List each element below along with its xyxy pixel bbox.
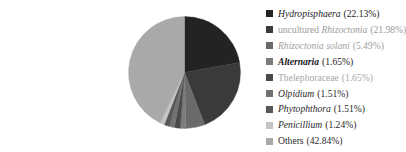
legend-swatch	[266, 74, 273, 81]
legend-percent: (1.51%)	[334, 103, 365, 114]
legend-percent: (5.49%)	[353, 40, 384, 51]
legend-percent: (22.13%)	[344, 8, 380, 19]
legend-label-italic: Rhizoctonia	[321, 24, 367, 35]
legend-swatch	[266, 106, 273, 113]
legend-item-phytophthora: Phytophthora(1.51%)	[266, 101, 406, 117]
legend-item-alternaria: Alternaria(1.65%)	[266, 54, 406, 70]
legend-swatch	[266, 26, 273, 33]
legend: Hydropisphaera(22.13%) uncultured Rhizoc…	[266, 6, 406, 149]
legend-percent: (1.24%)	[325, 119, 356, 130]
legend-percent: (1.51%)	[317, 88, 348, 99]
legend-swatch	[266, 90, 273, 97]
legend-label: Hydropisphaera	[278, 8, 341, 19]
legend-percent: (1.65%)	[342, 72, 373, 83]
legend-percent: (1.65%)	[322, 56, 353, 67]
legend-item-penicillium: Penicillium(1.24%)	[266, 117, 406, 133]
legend-item-others: Others(42.84%)	[266, 133, 406, 149]
legend-swatch	[266, 42, 273, 49]
legend-swatch	[266, 58, 273, 65]
legend-label: Others	[278, 135, 304, 146]
legend-percent: (42.84%)	[307, 135, 343, 146]
legend-label: Penicillium	[278, 119, 322, 130]
legend-label: Alternaria	[278, 56, 319, 67]
legend-swatch	[266, 122, 273, 129]
legend-item-rhizoctonia-solani: Rhizoctonia solani(5.49%)	[266, 38, 406, 54]
legend-swatch	[266, 138, 273, 145]
legend-label: uncultured Rhizoctonia	[278, 24, 367, 35]
legend-item-olpidium: Olpidium(1.51%)	[266, 85, 406, 101]
legend-swatch	[266, 10, 273, 17]
legend-item-uncultured-rhizoctonia: uncultured Rhizoctonia(21.98%)	[266, 22, 406, 38]
legend-item-hydropisphaera: Hydropisphaera(22.13%)	[266, 6, 406, 22]
legend-percent: (21.98%)	[370, 24, 406, 35]
legend-item-thelephoraceae: Thelephoraceae(1.65%)	[266, 70, 406, 86]
legend-label: Thelephoraceae	[278, 72, 339, 83]
legend-label: Rhizoctonia solani	[278, 40, 350, 51]
legend-label: Olpidium	[278, 88, 314, 99]
legend-label: Phytophthora	[278, 103, 331, 114]
